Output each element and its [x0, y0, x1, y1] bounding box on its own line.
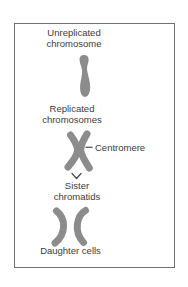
- sister-chromatids-bracket-icon: [72, 174, 81, 179]
- daughter-chromosome-right-shape: [77, 211, 85, 243]
- unreplicated-chromosome-label: Unreplicated chromosome: [30, 27, 118, 49]
- left-chromatid-shape: [68, 135, 78, 167]
- chromosome-replication-diagram: Unreplicated chromosome Replicated chrom…: [0, 0, 188, 287]
- daughter-chromosome-left-shape: [55, 211, 64, 243]
- replicated-chromosomes-label: Replicated chromosomes: [28, 103, 116, 125]
- unreplicated-chromosome-shape: [80, 55, 91, 97]
- centromere-label: Centromere: [95, 142, 145, 153]
- daughter-cells-label: Daughter cells: [33, 245, 108, 256]
- right-chromatid-shape: [81, 134, 90, 168]
- sister-chromatids-label: Sister chromatids: [46, 180, 108, 202]
